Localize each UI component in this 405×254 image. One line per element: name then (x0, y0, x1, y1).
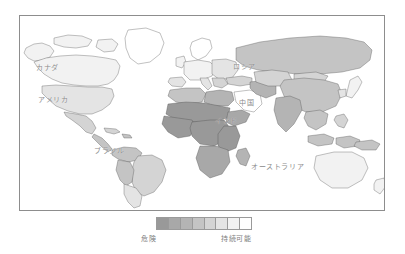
legend-label-sustainable: 持続可能 (221, 235, 251, 244)
world-map-svg (20, 16, 384, 210)
world-map-panel: カナダ アメリカ ブラジル ロシア 中国 インド オーストラリア (19, 15, 385, 211)
legend-swatch-2 (169, 218, 181, 229)
legend-swatch-6 (216, 218, 228, 229)
legend-color-bar (156, 217, 252, 230)
country-libya-egypt (204, 90, 234, 106)
legend-swatch-8 (240, 218, 251, 229)
figure-root: カナダ アメリカ ブラジル ロシア 中国 インド オーストラリア 危険 持続可能 (0, 0, 405, 254)
legend-swatch-7 (228, 218, 240, 229)
legend-swatch-3 (181, 218, 193, 229)
legend-swatch-4 (193, 218, 205, 229)
legend-swatch-5 (205, 218, 217, 229)
legend-label-danger: 危険 (141, 235, 156, 244)
legend: 危険 持続可能 (0, 214, 405, 254)
legend-swatch-1 (157, 218, 169, 229)
